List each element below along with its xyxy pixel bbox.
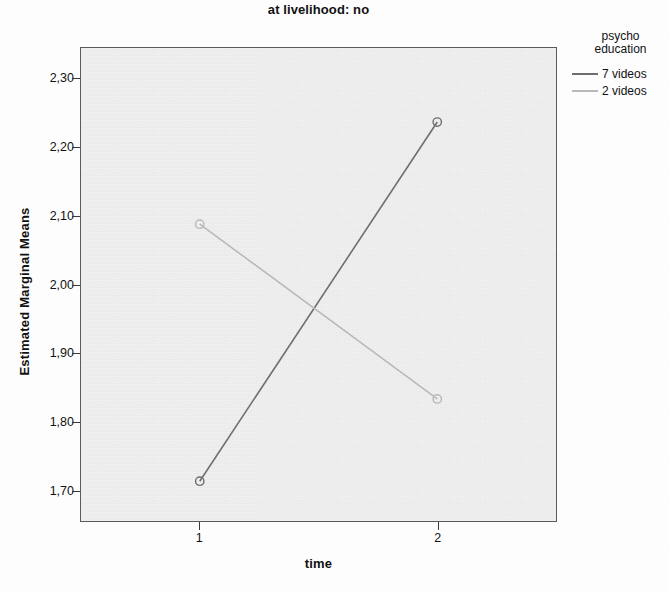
y-tick-mark bbox=[72, 147, 80, 148]
legend-line-swatch bbox=[572, 90, 598, 92]
legend-title: psycho education bbox=[572, 30, 669, 57]
series-line bbox=[200, 122, 438, 481]
y-tick-mark bbox=[72, 78, 80, 79]
y-tick-label: 1,70 bbox=[28, 484, 74, 498]
y-tick-mark bbox=[72, 491, 80, 492]
y-tick-label: 2,30 bbox=[28, 71, 74, 85]
y-axis-tick-marks bbox=[72, 47, 80, 522]
legend-entry-1: 7 videos bbox=[572, 66, 669, 83]
legend: psycho education 7 videos2 videos bbox=[572, 30, 669, 100]
x-axis-tick-marks bbox=[80, 522, 557, 530]
x-axis-tick-labels: 12 bbox=[80, 531, 557, 549]
y-axis-tick-labels: 1,701,801,902,002,102,202,30 bbox=[26, 47, 74, 522]
chart-title-line-1 bbox=[80, 0, 557, 1]
y-tick-label: 2,00 bbox=[28, 278, 74, 292]
x-tick-label: 1 bbox=[179, 531, 219, 545]
y-tick-mark bbox=[72, 216, 80, 217]
series-layer bbox=[81, 48, 556, 521]
series-2 bbox=[196, 220, 442, 403]
legend-label: 2 videos bbox=[602, 84, 647, 98]
legend-line-swatch bbox=[572, 73, 598, 75]
y-tick-mark bbox=[72, 422, 80, 423]
y-tick-label: 1,90 bbox=[28, 346, 74, 360]
legend-entries: 7 videos2 videos bbox=[572, 66, 669, 100]
y-tick-mark bbox=[72, 285, 80, 286]
y-tick-mark bbox=[72, 353, 80, 354]
x-tick-mark bbox=[438, 522, 439, 530]
chart-page: at livelihood: no Estimated Marginal Mea… bbox=[0, 0, 669, 592]
y-tick-label: 1,80 bbox=[28, 415, 74, 429]
series-line bbox=[200, 224, 438, 399]
series-1 bbox=[196, 118, 442, 486]
legend-label: 7 videos bbox=[602, 67, 647, 81]
x-tick-mark bbox=[199, 522, 200, 530]
x-tick-label: 2 bbox=[418, 531, 458, 545]
y-tick-label: 2,10 bbox=[28, 209, 74, 223]
y-tick-label: 2,20 bbox=[28, 140, 74, 154]
chart-title-line-2: at livelihood: no bbox=[80, 2, 557, 17]
plot-area bbox=[80, 47, 557, 522]
x-axis-title: time bbox=[80, 556, 557, 571]
legend-entry-2: 2 videos bbox=[572, 83, 669, 100]
